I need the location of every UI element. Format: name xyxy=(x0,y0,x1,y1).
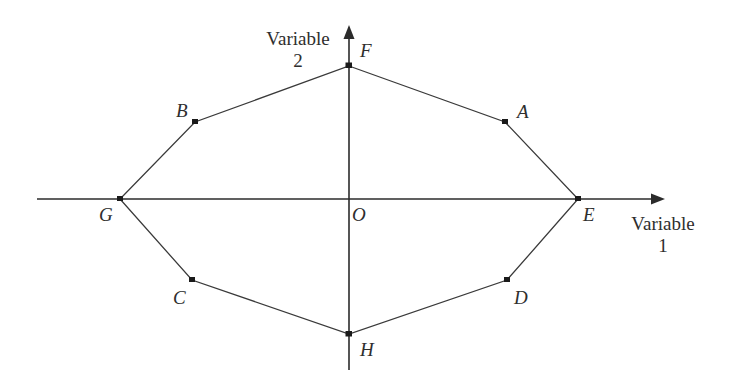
vertex-marker-g xyxy=(117,196,123,201)
vertex-marker-c xyxy=(189,277,195,282)
point-label-a: A xyxy=(517,102,529,121)
point-label-h: H xyxy=(360,340,374,359)
point-label-e: E xyxy=(583,205,595,224)
point-label-g: G xyxy=(99,205,113,224)
y-axis-label-line2: 2 xyxy=(234,50,362,72)
x-axis-label-line1: Variable xyxy=(599,213,727,235)
y-axis-label-line1: Variable xyxy=(234,28,362,50)
vertex-marker-h xyxy=(346,331,353,337)
vertex-marker-d xyxy=(504,277,510,282)
y-axis-label: Variable 2 xyxy=(234,28,362,73)
octagon-coordinate-diagram: A B C D E F G H O Variable 1 Variable 2 xyxy=(0,0,731,388)
origin-label: O xyxy=(352,205,366,224)
vertex-marker-b xyxy=(192,119,198,124)
point-label-c: C xyxy=(173,288,186,307)
horizontal-axis-arrow-icon xyxy=(651,194,665,205)
x-axis-label-line2: 1 xyxy=(599,235,727,257)
vertex-marker-e xyxy=(575,196,581,201)
x-axis-label: Variable 1 xyxy=(599,213,727,258)
point-label-d: D xyxy=(514,288,528,307)
vertex-marker-a xyxy=(502,119,508,124)
point-label-b: B xyxy=(176,101,188,120)
